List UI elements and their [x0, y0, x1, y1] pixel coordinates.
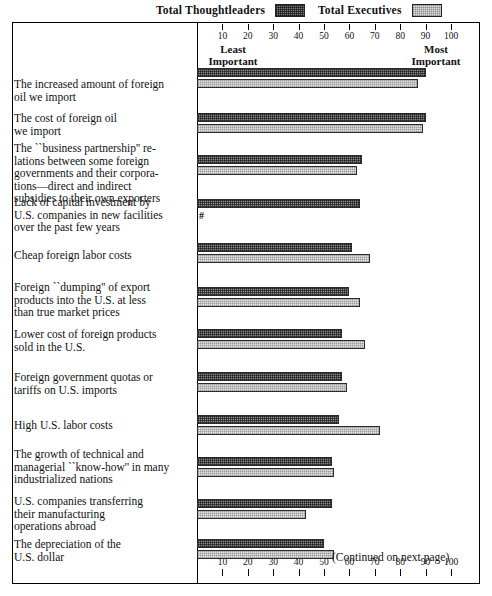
bar-thoughtleaders [197, 68, 426, 77]
category-label-line: managerial ``know-how'' in many [14, 461, 189, 474]
bar-executives [197, 383, 347, 392]
chart-rows: The increased amount of foreignoil we im… [0, 0, 492, 596]
bar-thoughtleaders [197, 155, 362, 164]
bar-thoughtleaders [197, 243, 352, 252]
category-label-line: over the past few years [14, 221, 189, 234]
category-label-line: The growth of technical and [14, 448, 189, 461]
bar-thoughtleaders [197, 113, 426, 122]
category-label: U.S. companies transferringtheir manufac… [14, 495, 189, 533]
category-label-line: products into the U.S. at less [14, 294, 189, 307]
category-label-line: operations abroad [14, 520, 189, 533]
bar-thoughtleaders [197, 199, 360, 208]
category-label-line: lations between some foreign [14, 155, 189, 168]
category-label: The depreciation of theU.S. dollar [14, 538, 189, 563]
category-label-line: Foreign ``dumping'' of export [14, 281, 189, 294]
category-label: Lower cost of foreign productssold in th… [14, 328, 189, 353]
bar-thoughtleaders [197, 287, 349, 296]
category-label-line: we import [14, 125, 189, 138]
category-label: The increased amount of foreignoil we im… [14, 78, 189, 103]
category-label-line: U.S. companies transferring [14, 495, 189, 508]
bar-executives [197, 254, 370, 263]
bar-thoughtleaders [197, 372, 342, 381]
category-label-line: The cost of foreign oil [14, 112, 189, 125]
category-label-line: industrialized nations [14, 473, 189, 486]
category-label: Lack of capital investment byU.S. compan… [14, 196, 189, 234]
bar-thoughtleaders [197, 539, 324, 548]
category-label-line: sold in the U.S. [14, 341, 189, 354]
category-label: High U.S. labor costs [14, 419, 189, 432]
category-label-line: The depreciation of the [14, 538, 189, 551]
bar-executives [197, 426, 380, 435]
category-label: The cost of foreign oilwe import [14, 112, 189, 137]
bar-thoughtleaders [197, 457, 332, 466]
category-label: The growth of technical andmanagerial ``… [14, 448, 189, 486]
category-label-line: Cheap foreign labor costs [14, 249, 189, 262]
category-label: Cheap foreign labor costs [14, 249, 189, 262]
category-label: Foreign government quotas ortariffs on U… [14, 371, 189, 396]
category-label-line: oil we import [14, 91, 189, 104]
bar-executives [197, 340, 365, 349]
bar-thoughtleaders [197, 415, 339, 424]
bar-executives [197, 550, 334, 559]
bar-executives [197, 298, 360, 307]
category-label-line: tariffs on U.S. imports [14, 384, 189, 397]
bar-executives [197, 166, 357, 175]
category-label-line: than true market prices [14, 306, 189, 319]
category-label-line: The increased amount of foreign [14, 78, 189, 91]
bar-thoughtleaders [197, 329, 342, 338]
category-label-line: their manufacturing [14, 508, 189, 521]
category-label-line: governments and their corpora- [14, 167, 189, 180]
bar-thoughtleaders [197, 499, 332, 508]
category-label-line: U.S. companies in new facilities [14, 209, 189, 222]
bar-executives [197, 510, 306, 519]
category-label-line: High U.S. labor costs [14, 419, 189, 432]
negligible-value-marker: # [199, 211, 204, 220]
category-label-line: Foreign government quotas or [14, 371, 189, 384]
bar-executives [197, 468, 334, 477]
category-label-line: The ``business partnership'' re- [14, 142, 189, 155]
category-label: Foreign ``dumping'' of exportproducts in… [14, 281, 189, 319]
continued-note: (Continued on next page) [332, 551, 449, 563]
bar-executives [197, 79, 418, 88]
category-label-line: U.S. dollar [14, 551, 189, 564]
category-label-line: Lack of capital investment by [14, 196, 189, 209]
category-label-line: tions—direct and indirect [14, 180, 189, 193]
bar-executives [197, 124, 423, 133]
category-label-line: Lower cost of foreign products [14, 328, 189, 341]
